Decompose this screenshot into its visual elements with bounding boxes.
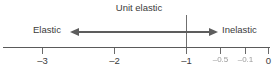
axis-tick-label: –1 <box>181 56 192 66</box>
unit-elastic-label: Unit elastic <box>0 3 278 13</box>
axis-tick-label: 0 <box>266 56 271 66</box>
axis-tick-label: –0.5 <box>213 56 229 64</box>
axis-tick <box>186 48 187 54</box>
axis-tick-label: –2 <box>109 56 120 66</box>
axis-tick <box>114 48 115 54</box>
arrow-head-right-icon <box>209 28 218 36</box>
axis-tick-label: –3 <box>37 56 48 66</box>
axis-tick <box>42 48 43 54</box>
elasticity-number-line-diagram: Unit elastic Elastic Inelastic –3–2–1–0.… <box>0 0 278 71</box>
axis-tick <box>220 48 221 54</box>
elastic-region-label: Elastic <box>33 25 61 35</box>
elasticity-range-arrow <box>70 27 218 36</box>
axis-tick <box>245 48 246 54</box>
axis-tick <box>268 48 269 54</box>
inelastic-region-label: Inelastic <box>222 25 257 35</box>
axis-tick-label: –0.1 <box>238 56 254 64</box>
arrow-shaft <box>77 31 211 33</box>
